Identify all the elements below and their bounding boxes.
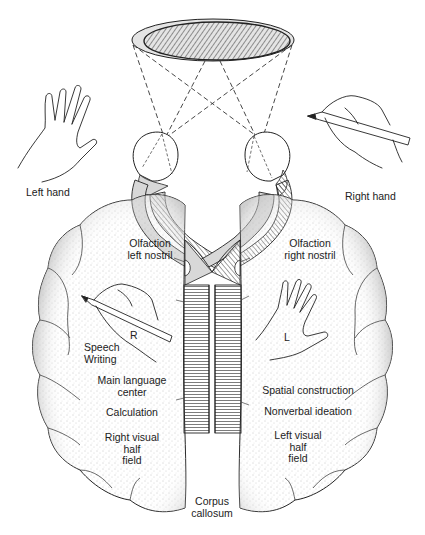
- label-spatial-construction: Spatial construction: [248, 385, 368, 397]
- label-corpus-callosum: Corpus callosum: [182, 496, 242, 519]
- label-olfaction-right: Olfaction right nostril: [260, 238, 360, 261]
- label-hand-L: L: [284, 332, 290, 344]
- label-olfaction-left: Olfaction left nostril: [100, 238, 200, 261]
- right-hand-drawing: [308, 96, 410, 168]
- corpus-callosum: [184, 285, 241, 433]
- split-brain-diagram: [0, 0, 425, 535]
- label-hand-R: R: [130, 330, 138, 342]
- label-left-hand: Left hand: [26, 187, 70, 199]
- left-hand-drawing: [18, 85, 97, 182]
- label-nonverbal-ideation: Nonverbal ideation: [248, 406, 368, 418]
- label-left-visual-half-field: Left visual half field: [248, 430, 348, 465]
- label-calculation: Calculation: [82, 407, 182, 419]
- label-main-language-center: Main language center: [82, 375, 182, 398]
- visual-field-ellipse: [132, 19, 294, 61]
- label-right-hand: Right hand: [345, 191, 396, 203]
- label-right-visual-half-field: Right visual half field: [82, 432, 182, 467]
- label-speech-writing: Speech Writing: [84, 342, 120, 365]
